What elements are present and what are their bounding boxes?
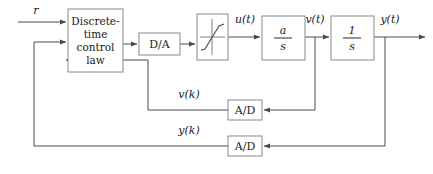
controller-label-line-4: law [86, 54, 105, 66]
controller-label-line-3: control [77, 41, 116, 53]
signal-label-velocity: v(t) [305, 13, 324, 26]
controller-label-line-2: time [84, 28, 108, 40]
ad-inner-label: A/D [234, 104, 256, 117]
ad-outer-label: A/D [234, 140, 256, 153]
signal-label-control-input: u(t) [235, 13, 255, 26]
plant-gain-numerator: a [280, 24, 287, 37]
diagram-text-layer: Discrete- time control law D/A a s 1 s A… [0, 0, 433, 174]
signal-label-reference: r [33, 4, 39, 17]
plant-gain-denominator: s [280, 40, 286, 53]
control-system-block-diagram: Discrete- time control law D/A a s 1 s A… [0, 0, 433, 174]
signal-label-output: y(t) [379, 13, 399, 26]
signal-label-output-sampled: y(k) [177, 124, 199, 137]
signal-label-velocity-sampled: v(k) [178, 88, 199, 101]
controller-label-line-1: Discrete- [71, 15, 120, 27]
integrator-numerator: 1 [349, 24, 356, 37]
da-label: D/A [149, 38, 171, 51]
integrator-denominator: s [349, 40, 355, 53]
